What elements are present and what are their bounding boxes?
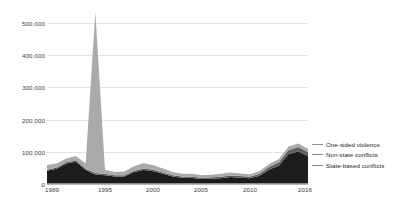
y-tick-label: 100,000	[22, 148, 45, 155]
legend-line-icon	[312, 165, 323, 166]
chart-legend: One-sided violence Non-state conflicts S…	[312, 139, 406, 171]
series-areas	[47, 12, 308, 184]
legend-item-state-based-conflicts[interactable]: State-based conflicts	[312, 160, 406, 171]
legend-label: One-sided violence	[326, 141, 380, 148]
legend-line-icon	[312, 154, 323, 155]
y-axis: 500,000 400,000 300,000 200,000 100,000 …	[0, 12, 45, 184]
y-tick-label: 200,000	[22, 116, 45, 123]
y-tick-label: 400,000	[22, 52, 45, 59]
y-tick-label: 300,000	[22, 84, 45, 91]
legend-label: State-based conflicts	[326, 162, 385, 169]
area-one-sided-violence	[47, 12, 308, 178]
x-tick-label: 1995	[98, 186, 112, 193]
x-tick-label: 2016	[298, 186, 312, 193]
plot-area	[47, 12, 308, 184]
y-tick-label: 500,000	[22, 20, 45, 27]
legend-line-icon	[312, 144, 323, 145]
x-tick-label: 2000	[146, 186, 160, 193]
legend-item-non-state-conflicts[interactable]: Non-state conflicts	[312, 150, 406, 161]
x-tick-label: 2010	[243, 186, 257, 193]
legend-label: Non-state conflicts	[326, 151, 378, 158]
legend-item-one-sided-violence[interactable]: One-sided violence	[312, 139, 406, 150]
stacked-area-chart: 500,000 400,000 300,000 200,000 100,000 …	[0, 0, 408, 207]
x-tick-label: 2005	[194, 186, 208, 193]
x-axis: 1989 1995 2000 2005 2010 2016	[0, 186, 408, 200]
x-tick-label: 1989	[45, 186, 59, 193]
